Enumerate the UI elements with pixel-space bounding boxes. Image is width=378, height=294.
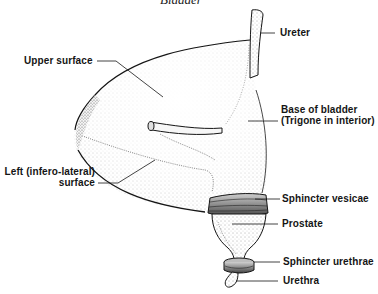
label-left-surface-line2: surface <box>59 177 95 188</box>
label-base-of-bladder: Base of bladder <box>281 104 358 115</box>
label-ureter: Ureter <box>280 27 310 38</box>
prostate <box>212 214 266 260</box>
label-sphincter-urethrae: Sphincter urethrae <box>283 256 374 267</box>
diagram-drawing <box>0 0 378 294</box>
sphincter-urethrae <box>224 258 254 273</box>
bladder-diagram: Bladder <box>0 0 378 294</box>
sphincter-vesicae <box>208 194 268 217</box>
label-upper-surface: Upper surface <box>24 55 93 66</box>
label-trigone: (Trigone in interior) <box>281 115 375 126</box>
label-prostate: Prostate <box>282 218 323 229</box>
label-sphincter-vesicae: Sphincter vesicae <box>282 193 369 204</box>
ureter <box>250 10 263 78</box>
label-urethra: Urethra <box>283 275 319 286</box>
urethra <box>225 272 238 287</box>
label-left-surface-line1: Left (infero-lateral) <box>5 166 95 177</box>
